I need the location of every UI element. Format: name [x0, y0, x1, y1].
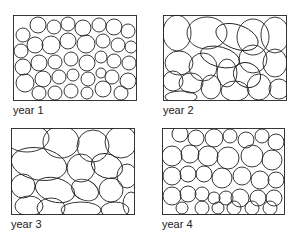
panel-label-year-1: year 1 — [13, 104, 44, 116]
circle-packing-year-3 — [11, 128, 135, 215]
panel-year-3 — [11, 128, 135, 215]
panel-label-year-3: year 3 — [11, 218, 42, 230]
panel-label-year-4: year 4 — [162, 218, 193, 230]
circle-packing-year-2 — [163, 15, 287, 101]
panel-year-4 — [162, 128, 285, 215]
panel-year-1 — [13, 15, 137, 101]
circle-packing-year-4 — [162, 128, 285, 215]
panel-year-2 — [163, 15, 287, 101]
circle-packing-year-1 — [13, 15, 137, 101]
panel-label-year-2: year 2 — [163, 104, 194, 116]
